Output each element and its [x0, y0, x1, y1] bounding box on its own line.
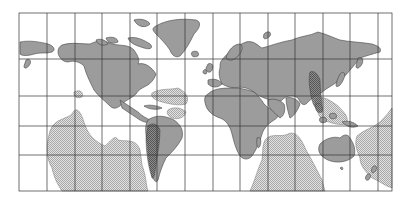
world-map [0, 0, 414, 201]
